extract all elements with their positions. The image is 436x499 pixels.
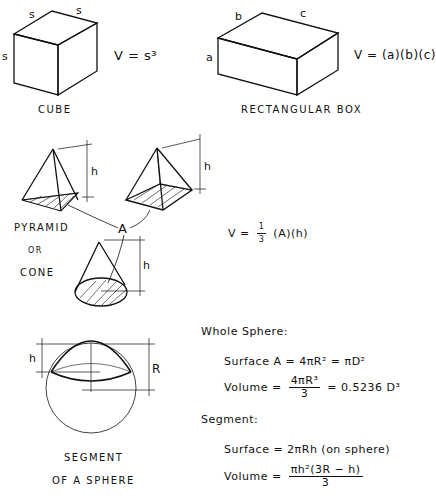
whole-sphere-volume-formula: Volume = 4πR³ 3 = 0.5236 D³ xyxy=(224,375,400,400)
pyramid-height-label: h xyxy=(91,165,98,178)
volume-prefix: Volume = xyxy=(224,470,282,483)
radius-label: R xyxy=(152,362,161,376)
volume-prefix: Volume = xyxy=(224,381,282,394)
volume-fraction: πh²(3R − h) 3 xyxy=(289,464,363,489)
whole-sphere-heading: Whole Sphere: xyxy=(201,325,288,338)
cube-caption: Cube xyxy=(38,104,71,115)
pyramid-caption: Pyramid xyxy=(14,222,69,233)
fraction-denominator: 3 xyxy=(322,477,330,489)
cube-edge-label-s: s xyxy=(29,8,35,21)
volume-suffix: = 0.5236 D³ xyxy=(327,381,400,394)
segment-height-label: h xyxy=(29,352,36,365)
segment-volume-formula: Volume = πh²(3R − h) 3 xyxy=(224,464,366,489)
box-edge-label-a: a xyxy=(206,51,213,64)
fraction-denominator: 3 xyxy=(259,234,265,246)
triangular-pyramid-figure xyxy=(22,140,94,211)
square-pyramid-figure xyxy=(126,134,206,210)
base-area-label: A xyxy=(118,221,127,236)
box-caption: Rectangular Box xyxy=(241,104,362,115)
box-edge-label-b: b xyxy=(235,10,242,23)
rectangular-box-figure xyxy=(218,13,338,95)
fraction-numerator: 1 xyxy=(257,221,267,234)
formula-prefix: V = xyxy=(228,227,250,240)
one-third-fraction: 1 3 xyxy=(257,221,267,246)
cube-edge-label-s: s xyxy=(2,50,8,63)
segment-heading: Segment: xyxy=(201,413,258,426)
segment-caption-line1: Segment xyxy=(64,452,123,463)
cone-caption: Cone xyxy=(20,267,55,278)
cube-formula: V = s³ xyxy=(114,48,157,63)
fraction-denominator: 3 xyxy=(301,388,309,400)
cube-figure xyxy=(14,11,97,95)
cube-edge-label-s: s xyxy=(76,4,82,17)
box-formula: V = (a)(b)(c) xyxy=(354,48,436,62)
or-caption: or xyxy=(28,246,43,255)
segment-surface-formula: Surface = 2πRh (on sphere) xyxy=(224,443,390,456)
volume-fraction: 4πR³ 3 xyxy=(289,375,321,400)
square-pyramid-height-label: h xyxy=(204,160,211,173)
whole-sphere-surface-formula: Surface A = 4πR² = πD² xyxy=(224,355,366,368)
segment-caption-line2: of a Sphere xyxy=(52,475,135,486)
cone-height-label: h xyxy=(143,259,150,272)
sphere-segment-figure xyxy=(36,338,155,433)
formula-suffix: (A)(h) xyxy=(273,227,308,240)
cone-figure xyxy=(75,236,145,306)
pyramid-cone-formula: V = 1 3 (A)(h) xyxy=(228,221,308,246)
box-edge-label-c: c xyxy=(300,7,307,20)
